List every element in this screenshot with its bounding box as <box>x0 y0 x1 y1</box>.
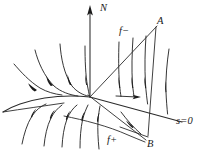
s-axis <box>90 97 182 122</box>
lower-boundary-arc <box>64 116 145 142</box>
lower-cross-line <box>120 127 148 137</box>
label-point-a: A <box>157 16 164 27</box>
center-right-arrow <box>116 95 141 100</box>
flow-right-2 <box>131 38 134 98</box>
flow-lower-left-4 <box>80 105 88 148</box>
label-f-plus: f+ <box>107 135 117 146</box>
flow-upper-left-4 <box>85 46 90 96</box>
flow-lower-left-2 <box>44 105 62 146</box>
n-axis <box>87 5 93 97</box>
phase-portrait-figure: N s=0 f− f+ A B <box>0 0 202 153</box>
flow-right-4 <box>165 49 169 114</box>
label-n-axis: N <box>100 3 107 14</box>
flow-right-1 <box>118 42 121 97</box>
flow-lower-left-3 <box>62 105 77 147</box>
f-minus-line <box>90 26 157 97</box>
flow-upper-left-3 <box>60 44 88 96</box>
phase-portrait-canvas <box>0 0 202 153</box>
flow-upper-left-1 <box>14 64 62 95</box>
flow-right-3 <box>144 36 147 104</box>
label-s-axis: s=0 <box>176 116 193 127</box>
label-f-minus: f− <box>119 26 129 37</box>
flow-lower-left-1 <box>22 104 46 144</box>
ab-segment <box>148 27 156 136</box>
flow-lower-left-5 <box>97 106 100 149</box>
label-point-b: B <box>147 139 154 150</box>
